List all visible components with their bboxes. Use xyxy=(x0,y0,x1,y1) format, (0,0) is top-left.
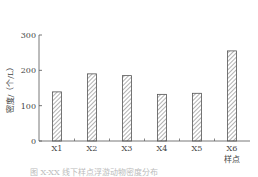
x-tick-label: X4 xyxy=(157,144,168,153)
y-tick-label: 0 xyxy=(31,137,36,146)
y-tick-label: 100 xyxy=(21,102,36,111)
y-tick-label: 200 xyxy=(21,66,36,75)
x-tick-label: X6 xyxy=(227,144,238,153)
bar-chart: 0100200300X1X2X3X4X5X6样点密度/（个/L） xyxy=(0,0,258,177)
x-tick-label: X2 xyxy=(87,144,98,153)
bar-x6 xyxy=(228,51,237,141)
bar-x3 xyxy=(123,76,132,141)
bar-x1 xyxy=(53,92,62,141)
bars xyxy=(53,51,237,141)
y-axis-label: 密度/（个/L） xyxy=(5,63,15,114)
bar-x4 xyxy=(158,94,167,141)
x-tick-label: X3 xyxy=(122,144,133,153)
axes xyxy=(39,35,250,141)
bar-x2 xyxy=(88,74,97,141)
bar-x5 xyxy=(193,93,202,141)
y-tick-label: 300 xyxy=(21,31,36,40)
figure-caption: 图 X-XX 线下样点浮游动物密度分布 xyxy=(30,166,250,177)
x-tick-label: X5 xyxy=(192,144,203,153)
x-tick-label: X1 xyxy=(52,144,63,153)
x-axis-label: 样点 xyxy=(224,154,240,164)
